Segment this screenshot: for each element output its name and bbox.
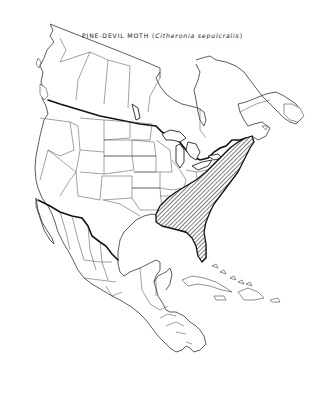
quebec-labrador-border — [240, 100, 270, 112]
hudson-bay-coastline — [156, 64, 206, 126]
prince-edward-island — [262, 126, 268, 130]
north-america-map-svg — [0, 0, 323, 393]
pacific-northwest-coastline — [35, 24, 54, 180]
great-bear-slave-lakes — [132, 104, 140, 120]
lake-huron — [186, 142, 200, 160]
us-mexico-border — [38, 200, 118, 260]
title-scientific-name: Citheronia sepulcralis — [155, 32, 240, 39]
newfoundland — [284, 104, 304, 122]
sask-manitoba-border — [128, 66, 130, 108]
jamaica — [214, 296, 226, 300]
bahamas-4 — [238, 280, 244, 284]
mexico-pacific-coastline — [58, 232, 206, 352]
hispaniola — [238, 288, 264, 300]
lake-superior — [162, 130, 186, 142]
bc-alberta-border — [76, 52, 90, 100]
range-map: PINE-DEVIL MOTH (Citheronia sepulcralis) — [0, 0, 323, 393]
vancouver-island — [40, 84, 48, 100]
us-west-coastline — [36, 180, 58, 232]
puerto-rico — [270, 298, 280, 302]
us-canada-border — [48, 100, 246, 160]
mexico-state-borders — [60, 212, 168, 310]
bahamas-3 — [230, 276, 236, 280]
title-common-name: PINE-DEVIL MOTH — [82, 32, 149, 39]
bahamas-1 — [212, 264, 218, 268]
map-title: PINE-DEVIL MOTH (Citheronia sepulcralis) — [82, 32, 243, 39]
cuba — [182, 276, 232, 292]
yukon-nwt-border — [60, 38, 66, 62]
maritimes-coastline — [238, 104, 270, 140]
central-america-borders — [160, 314, 192, 344]
caribbean-islands — [182, 264, 280, 302]
title-close-paren: ) — [240, 32, 243, 39]
bahamas-2 — [220, 270, 226, 274]
lake-michigan — [176, 144, 184, 168]
bahamas-5 — [246, 282, 252, 286]
baja-california — [36, 198, 54, 244]
nwt-south-border — [60, 52, 130, 66]
alberta-sask-border — [104, 60, 108, 104]
yucatan-peninsula — [154, 268, 172, 290]
